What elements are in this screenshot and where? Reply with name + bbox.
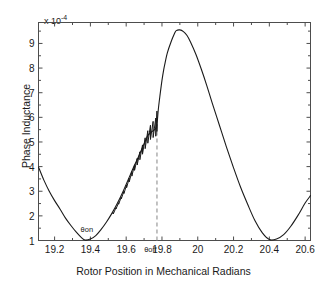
data-series	[39, 30, 311, 240]
axes-frame	[39, 23, 311, 241]
tick-marks	[39, 23, 311, 241]
cropped-caption-remnant	[10, 278, 320, 286]
plot-area	[0, 0, 327, 288]
figure-container: x 10-4 Phase Inductance Rotor Position i…	[0, 0, 327, 288]
series-line	[39, 30, 311, 240]
series-ripple	[112, 111, 157, 214]
axes-box	[39, 23, 311, 241]
